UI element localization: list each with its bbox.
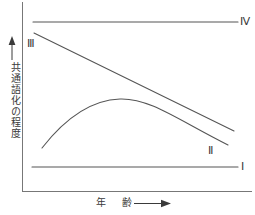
series-label-i: Ⅰ bbox=[241, 161, 244, 172]
arrow-right-icon bbox=[134, 200, 171, 207]
series-curve-ii bbox=[42, 99, 228, 148]
standardization-by-age-figure: Ⅳ Ⅲ Ⅱ Ⅰ 共通語化の程度 年 齢 bbox=[0, 0, 255, 215]
series-label-iii: Ⅲ bbox=[27, 38, 35, 49]
series-label-ii: Ⅱ bbox=[208, 145, 213, 156]
arrow-up-icon bbox=[9, 36, 16, 60]
series-line-iii bbox=[34, 33, 234, 131]
series-label-iv: Ⅳ bbox=[240, 16, 250, 27]
y-axis-title: 共通語化の程度 bbox=[5, 62, 19, 139]
chart-canvas bbox=[0, 0, 255, 215]
x-axis-title: 年 齢 bbox=[96, 198, 135, 208]
